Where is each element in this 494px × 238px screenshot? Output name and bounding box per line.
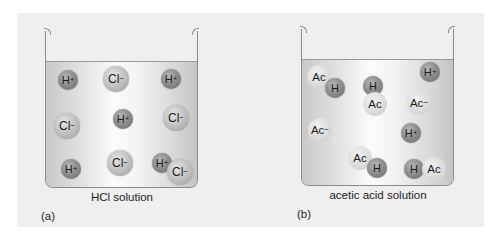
hydrogen-particle: H xyxy=(325,78,345,98)
acetate-ion-particle: Ac− xyxy=(308,118,332,142)
particle-charge: + xyxy=(70,75,75,84)
chloride-ion-particle: Cl− xyxy=(107,150,133,176)
hydrogen-ion-particle: H+ xyxy=(401,123,421,143)
chloride-ion-particle: Cl− xyxy=(167,159,193,185)
panel-label-a: (a) xyxy=(41,210,55,222)
panel-label-b: (b) xyxy=(297,208,311,220)
hydrogen-ion-particle: H+ xyxy=(58,70,78,90)
particle-symbol: Ac xyxy=(427,163,440,175)
particle-symbol: H xyxy=(65,163,73,175)
hydrogen-ion-particle: H+ xyxy=(113,109,133,129)
particle-charge: − xyxy=(123,158,128,167)
particle-symbol: H xyxy=(156,157,164,169)
caption-hcl: HCl solution xyxy=(91,191,153,203)
particle-symbol: Cl xyxy=(168,111,179,125)
hydrogen-particle: H xyxy=(367,158,387,178)
particle-charge: + xyxy=(73,164,78,173)
particle-symbol: H xyxy=(405,127,413,139)
particle-charge: − xyxy=(324,125,329,134)
particle-symbol: H xyxy=(373,162,381,174)
particle-charge: − xyxy=(179,113,184,122)
particle-charge: + xyxy=(413,128,418,137)
acetate-particle: Ac xyxy=(363,92,387,116)
particle-symbol: H xyxy=(331,82,339,94)
particle-symbol: Cl xyxy=(172,165,183,179)
particle-symbol: Ac xyxy=(312,71,325,83)
particle-symbol: H xyxy=(165,73,173,85)
particle-charge: + xyxy=(173,74,178,83)
particle-charge: + xyxy=(432,67,437,76)
particle-symbol: Cl xyxy=(59,119,70,133)
particle-symbol: Cl xyxy=(108,72,119,86)
hydrogen-particle: H xyxy=(404,159,424,179)
beaker-lip-right xyxy=(192,28,199,35)
particle-charge: − xyxy=(423,98,428,107)
particle-symbol: Ac xyxy=(311,124,324,136)
particle-charge: + xyxy=(125,114,130,123)
hydrogen-ion-particle: H+ xyxy=(161,69,181,89)
acetate-ion-particle: Ac− xyxy=(407,91,431,115)
particle-symbol: H xyxy=(117,113,125,125)
chloride-ion-particle: Cl− xyxy=(163,105,189,131)
particle-symbol: Cl xyxy=(112,156,123,170)
particle-symbol: H xyxy=(410,163,418,175)
beaker-lip-right xyxy=(448,26,455,33)
hydrogen-ion-particle: H+ xyxy=(420,62,440,82)
caption-acetic-acid: acetic acid solution xyxy=(329,189,426,201)
particle-symbol: Ac xyxy=(353,152,366,164)
hydrogen-ion-particle: H+ xyxy=(61,159,81,179)
particle-charge: − xyxy=(119,74,124,83)
particle-symbol: Ac xyxy=(368,98,381,110)
chloride-ion-particle: Cl− xyxy=(103,66,129,92)
particle-charge: − xyxy=(183,167,188,176)
particle-symbol: H xyxy=(369,80,377,92)
chloride-ion-particle: Cl− xyxy=(54,113,80,139)
acetate-particle: Ac xyxy=(422,157,446,181)
particle-charge: − xyxy=(70,121,75,130)
particle-symbol: H xyxy=(62,74,70,86)
particle-symbol: Ac xyxy=(410,97,423,109)
particle-symbol: H xyxy=(424,66,432,78)
